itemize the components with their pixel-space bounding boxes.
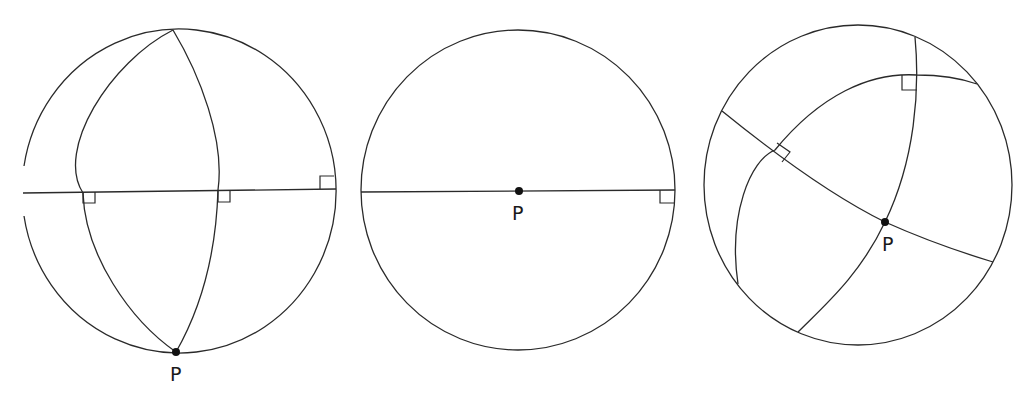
right-angle-marker: [902, 75, 917, 90]
panel-left: P: [23, 29, 336, 385]
meridian-arc-right: [798, 37, 917, 332]
point-p-middle: [515, 187, 523, 195]
right-angle-marker: [660, 190, 674, 203]
outer-arc-right: [736, 75, 977, 284]
right-angle-marker: [83, 192, 95, 203]
panel-middle: P: [361, 30, 675, 350]
right-angle-marker: [320, 176, 334, 189]
point-label-right: P: [882, 233, 893, 255]
right-angle-marker: [218, 190, 230, 202]
figure-svg: P P P: [0, 0, 1022, 394]
point-label-left: P: [170, 363, 181, 385]
figure-stage: P P P: [0, 0, 1022, 394]
equator-line-left: [23, 189, 336, 193]
point-p-right: [881, 218, 889, 226]
panel-right: P: [704, 25, 1012, 345]
point-label-middle: P: [512, 202, 523, 224]
transverse-arc-right: [722, 111, 993, 262]
sphere-outline-right: [704, 25, 1012, 345]
point-p-left: [172, 348, 180, 356]
